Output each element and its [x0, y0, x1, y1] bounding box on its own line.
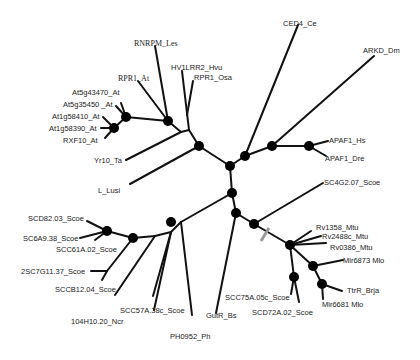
branch — [187, 81, 193, 115]
taxon-label: At1g58390_At — [49, 124, 97, 133]
node — [249, 219, 259, 229]
branch — [182, 71, 189, 130]
taxon-label: ARKD_Dm — [363, 46, 400, 55]
taxon-label: 104H10.20_Ncr — [71, 317, 124, 326]
node — [128, 233, 138, 243]
taxon-label: At1g58410_At — [52, 112, 100, 121]
branch — [155, 46, 168, 121]
labels: RNRPM_Les RPR1_At HV1LRR2_Hvu RPR1_Osa A… — [21, 19, 400, 341]
taxon-label: Yr10_Ta — [94, 156, 123, 165]
taxon-label: RPR1_Osa — [194, 73, 233, 82]
branch — [102, 271, 107, 280]
branch — [181, 222, 192, 315]
taxon-label: 2SC7G11.37_Scoe — [21, 267, 85, 276]
branch — [126, 117, 168, 121]
node — [304, 141, 314, 151]
taxon-label: Rv0386_Mtu — [330, 243, 373, 252]
node — [121, 112, 131, 122]
taxon-label: L_Lusi — [98, 186, 120, 195]
taxon-label: SC6A9.38_Scoe — [23, 234, 78, 243]
branch — [138, 81, 168, 121]
node — [317, 279, 327, 289]
node — [289, 272, 299, 282]
phylogenetic-tree: RNRPM_Les RPR1_At HV1LRR2_Hvu RPR1_Osa A… — [0, 0, 420, 360]
branch — [115, 236, 155, 295]
taxon-label: CED4_Ce — [283, 19, 317, 28]
taxon-label: APAF1_Dre — [325, 154, 364, 163]
taxon-label: Mlr6681 Mlo — [322, 300, 363, 309]
taxon-label: RNRPM_Les — [134, 39, 178, 48]
taxon-label: At5g35450 _At — [63, 100, 114, 109]
branch — [181, 130, 189, 132]
node — [166, 217, 176, 227]
branch — [126, 132, 181, 160]
taxon-label: PH0952_Ph — [170, 332, 210, 341]
node — [240, 151, 250, 161]
node — [308, 261, 318, 271]
taxon-label: SCD82.03_Scoe — [28, 214, 84, 223]
taxon-label: TtrR_Brja — [347, 286, 380, 295]
branch — [153, 232, 171, 296]
node — [267, 141, 277, 151]
taxon-label: RXF10_At — [63, 136, 99, 145]
node — [227, 188, 237, 198]
taxon-label: At5g43470_At — [72, 88, 120, 97]
taxon-label: SC4G2.07_Scoe — [324, 178, 380, 187]
taxon-label: HV1LRR2_Hvu — [171, 63, 222, 72]
branch — [254, 183, 323, 224]
node — [194, 141, 204, 151]
node — [109, 123, 119, 133]
node — [285, 240, 295, 250]
node — [163, 116, 173, 126]
taxon-label: GutR_Bs — [206, 311, 237, 320]
branch — [199, 146, 230, 166]
branch — [254, 224, 290, 245]
branch — [245, 25, 298, 156]
node — [231, 208, 241, 218]
branch — [155, 232, 171, 236]
node — [225, 161, 235, 171]
taxon-label: SCC57A.38c_Scoe — [120, 306, 185, 315]
taxon-label: SCC61A.02_Scoe — [56, 245, 117, 254]
branch — [272, 56, 374, 146]
branch — [107, 238, 133, 271]
branch — [181, 193, 232, 222]
taxon-label: RPR1_At — [118, 74, 150, 83]
taxon-label: SCD72A.02_Scoe — [252, 308, 313, 317]
taxon-label: APAF1_Hs — [329, 136, 366, 145]
taxon-label: Rv2488c_Mtu — [322, 232, 368, 241]
taxon-label: SCCB12.04_Scoe — [55, 285, 116, 294]
taxon-label: SCC75A.05c_Scoe — [225, 293, 290, 302]
taxon-label: Rv1358_Mtu — [316, 223, 359, 232]
taxon-label: Mlr6873 Mlo — [343, 256, 384, 265]
node — [102, 226, 112, 236]
